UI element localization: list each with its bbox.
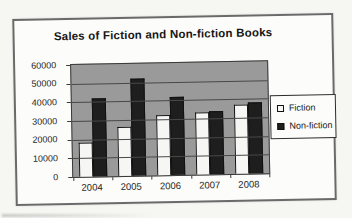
- legend-label-nonfiction: Non-fiction: [289, 120, 332, 131]
- plot-area: [70, 60, 270, 178]
- x-tick-mark: [269, 174, 270, 177]
- y-tick-mark: [68, 158, 72, 159]
- bar-fiction-2006: [156, 115, 171, 175]
- x-tick-mark: [191, 176, 192, 179]
- y-tick-mark: [66, 84, 70, 85]
- legend-label-fiction: Fiction: [289, 102, 316, 113]
- chart-title: Sales of Fiction and Non-fiction Books: [14, 25, 311, 43]
- x-tick-label-2005: 2005: [112, 180, 151, 192]
- nonfiction-swatch-icon: [277, 122, 284, 129]
- x-tick-label-2004: 2004: [72, 181, 111, 193]
- y-tick-mark: [68, 177, 72, 178]
- bar-fiction-2008: [234, 105, 249, 174]
- y-tick-label: 60000: [31, 60, 56, 70]
- bar-non-fiction-2007: [209, 111, 224, 175]
- x-axis-labels: 20042005200620072008: [72, 178, 268, 193]
- x-tick-mark: [152, 176, 153, 179]
- bar-non-fiction-2008: [248, 102, 263, 173]
- y-tick-label: 30000: [32, 116, 57, 126]
- x-tick-mark: [112, 177, 113, 180]
- y-tick-label: 50000: [31, 78, 56, 88]
- scanned-page: Sales of Fiction and Non-fiction Books 0…: [0, 0, 352, 218]
- legend: Fiction Non-fiction: [270, 94, 337, 139]
- x-tick-label-2008: 2008: [229, 178, 268, 190]
- y-tick-mark: [67, 102, 71, 103]
- y-tick-mark: [66, 65, 70, 66]
- bar-non-fiction-2006: [170, 96, 186, 175]
- legend-item-fiction: Fiction: [277, 102, 329, 113]
- bar-fiction-2005: [117, 127, 132, 176]
- y-tick-mark: [67, 121, 71, 122]
- x-tick-mark: [73, 178, 74, 181]
- y-axis-labels: 0100002000030000400005000060000: [15, 64, 66, 178]
- x-tick-label-2007: 2007: [190, 179, 229, 191]
- x-tick-mark: [230, 175, 231, 178]
- y-tick-mark: [68, 140, 72, 141]
- bar-fiction-2007: [195, 113, 210, 175]
- bar-non-fiction-2005: [130, 79, 146, 176]
- x-tick-label-2006: 2006: [151, 180, 190, 192]
- y-tick-label: 0: [53, 172, 58, 182]
- bar-non-fiction-2004: [91, 98, 107, 177]
- fiction-swatch-icon: [277, 104, 284, 111]
- y-tick-label: 10000: [33, 153, 58, 163]
- scan-artifact: [2, 214, 152, 217]
- legend-item-nonfiction: Non-fiction: [277, 120, 329, 131]
- y-tick-label: 40000: [32, 97, 57, 107]
- bar-fiction-2004: [78, 143, 93, 177]
- chart-frame: Sales of Fiction and Non-fiction Books 0…: [12, 13, 337, 206]
- y-tick-label: 20000: [32, 134, 57, 144]
